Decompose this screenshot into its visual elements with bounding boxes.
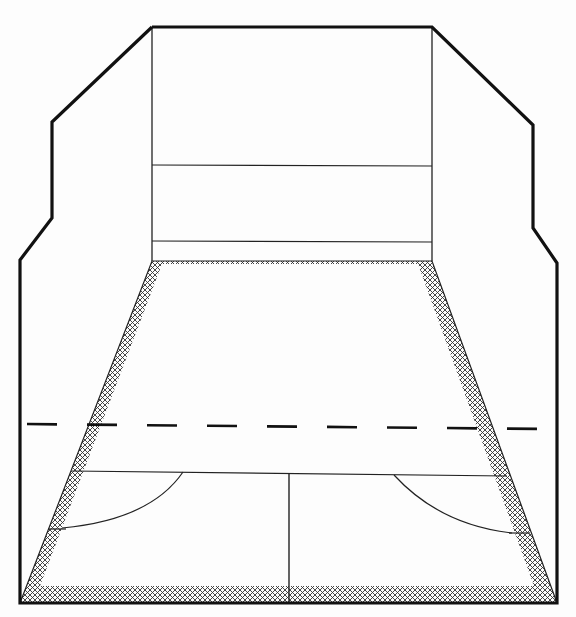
front-wall-tin-line bbox=[152, 241, 432, 242]
left-service-arc bbox=[62, 472, 183, 528]
right-service-arc bbox=[394, 475, 512, 533]
front-wall-upper-line bbox=[152, 165, 432, 166]
court-diagram bbox=[0, 0, 576, 617]
dashed-side-wall-line bbox=[22, 424, 545, 429]
